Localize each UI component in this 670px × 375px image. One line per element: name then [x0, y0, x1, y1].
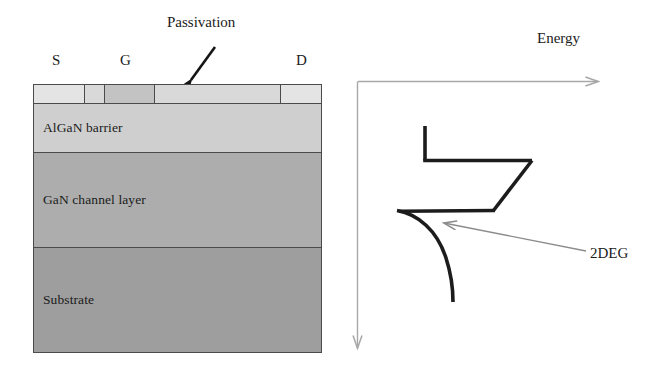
figure-root: S G D Passivation AlGaN barrier GaN — [0, 0, 670, 375]
leader-2deg — [444, 223, 586, 251]
band-diagram-svg — [340, 18, 670, 375]
passivation-callout-arrow — [182, 44, 226, 86]
electrode-label-source: S — [52, 52, 60, 69]
layer-label-algan-barrier: AlGaN barrier — [34, 120, 123, 136]
band-diagram: Energy 2DEG — [340, 18, 670, 375]
passivation-callout-label: Passivation — [167, 14, 235, 31]
conduction-band-profile — [397, 126, 532, 302]
contact-source[interactable] — [33, 84, 85, 104]
layer-algan-barrier: AlGaN barrier — [33, 103, 322, 153]
layer-gan-channel: GaN channel layer — [33, 152, 322, 248]
contact-gate[interactable] — [104, 84, 155, 104]
electrode-label-gate: G — [120, 52, 131, 69]
layer-substrate: Substrate — [33, 247, 322, 353]
layer-label-gan-channel: GaN channel layer — [34, 192, 146, 208]
layer-stack: AlGaN barrier GaN channel layer Substrat… — [33, 84, 322, 353]
layer-label-substrate: Substrate — [34, 292, 94, 308]
electrode-label-drain: D — [296, 52, 307, 69]
contact-drain[interactable] — [280, 84, 322, 104]
